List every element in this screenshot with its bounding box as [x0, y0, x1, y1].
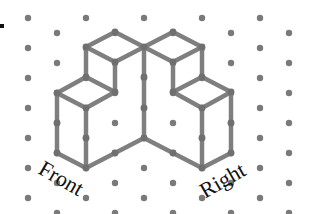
- block-structure: [57, 32, 231, 168]
